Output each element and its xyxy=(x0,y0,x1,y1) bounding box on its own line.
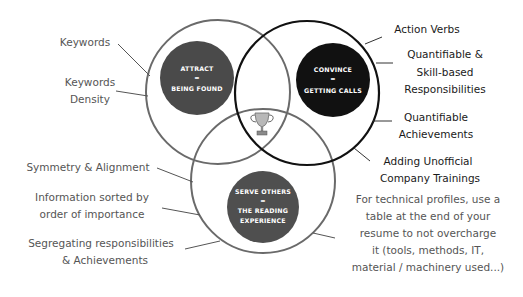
connector-info xyxy=(162,208,200,215)
label-segregating-2: & Achievements xyxy=(62,254,148,266)
convince-title: CONVINCE xyxy=(314,66,352,73)
attract-title: ATTRACT xyxy=(180,65,214,72)
label-achievements-1: Quantifiable xyxy=(404,111,468,123)
label-technical-4: it (tools, methods, IT, xyxy=(372,244,484,256)
label-action-verbs: Action Verbs xyxy=(394,23,460,35)
label-technical-1: For technical profiles, use a xyxy=(356,193,500,205)
label-keywords-density-1: Keywords xyxy=(65,76,115,88)
trophy-icon xyxy=(251,113,273,135)
label-info-1: Information sorted by xyxy=(35,191,149,203)
venn-diagram: ATTRACT = BEING FOUND CONVINCE = GETTING… xyxy=(0,0,523,297)
label-info-2: order of importance xyxy=(40,208,145,220)
serve-subtitle-2: EXPERIENCE xyxy=(240,217,286,224)
convince-equals: = xyxy=(330,75,335,82)
connector-trainings xyxy=(354,148,370,161)
connector-segregating xyxy=(185,241,220,249)
connector-technical xyxy=(313,233,335,238)
connector-symmetry xyxy=(157,168,193,182)
connector-action-verbs xyxy=(365,37,382,44)
label-keywords-density-2: Density xyxy=(70,93,110,105)
label-technical-3: resume to not overcharge xyxy=(360,227,496,239)
label-quantifiable-skill-3: Responsibilities xyxy=(404,83,485,95)
label-keywords: Keywords xyxy=(60,36,110,48)
serve-subtitle-1: THE READING xyxy=(238,207,288,214)
label-segregating-1: Segregating responsibilities xyxy=(28,237,174,249)
connector-keywords xyxy=(118,44,150,76)
label-quantifiable-skill-2: Skill-based xyxy=(417,66,474,78)
label-achievements-2: Achievements xyxy=(399,128,473,140)
attract-equals: = xyxy=(194,74,199,81)
serve-equals: = xyxy=(260,197,265,204)
label-trainings-1: Adding Unofficial xyxy=(384,155,473,167)
serve-title: SERVE OTHERS xyxy=(235,188,291,195)
label-quantifiable-skill-1: Quantifiable & xyxy=(407,48,483,60)
label-technical-2: table at the end of your xyxy=(366,210,491,222)
convince-subtitle: GETTING CALLS xyxy=(304,87,362,94)
label-symmetry: Symmetry & Alignment xyxy=(26,161,149,173)
attract-subtitle: BEING FOUND xyxy=(171,85,223,92)
connector-keywords-density xyxy=(116,91,148,96)
label-technical-5: material / machinery used...) xyxy=(352,261,504,273)
label-trainings-2: Company Trainings xyxy=(380,172,480,184)
